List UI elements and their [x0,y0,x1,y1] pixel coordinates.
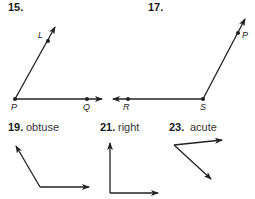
point-r-label: R [123,102,130,112]
obtuse-angle [16,146,89,187]
acute-angle [174,140,222,179]
angle-psr [113,19,245,101]
point-l-label: L [38,30,43,40]
angle-lpq [13,27,102,101]
point-s-label: S [200,102,206,112]
exercise-23-number: 23. [169,121,184,133]
point-p2-label: P [242,30,248,40]
right-angle [110,143,158,193]
exercise-21-number: 21. [100,121,115,133]
exercise-21-label: right [118,121,139,133]
exercise-23-label: acute [190,121,217,133]
exercise-19-number: 19. [8,121,23,133]
exercise-15-number: 15. [8,1,23,13]
point-q-label: Q [83,102,90,112]
exercise-17-number: 17. [148,1,163,13]
point-p-label: P [11,102,17,112]
exercise-19-label: obtuse [26,121,59,133]
